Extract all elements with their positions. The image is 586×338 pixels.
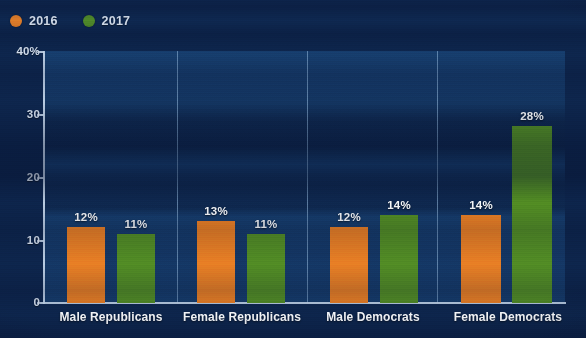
value-label-2017-female-republicans: 11% [247, 218, 285, 230]
legend-label-2017: 2017 [102, 14, 131, 28]
circle-marker-icon [83, 15, 95, 27]
value-label-2017-female-democrats: 28% [512, 110, 552, 122]
x-axis-category-male-republicans: Male Republicans [46, 310, 176, 324]
bar-2016-male-democrats[interactable] [330, 227, 368, 303]
value-label-2017-male-democrats: 14% [380, 199, 418, 211]
x-axis-category-female-republicans: Female Republicans [176, 310, 308, 324]
x-axis-category-male-democrats: Male Democrats [308, 310, 438, 324]
bar-2017-female-republicans[interactable] [247, 234, 285, 303]
plot-area: 40% 30 20 10 0 12% 11% 13% 11% 12% 14% 1… [0, 0, 586, 338]
bar-2016-male-republicans[interactable] [67, 227, 105, 303]
bars-layer [0, 0, 586, 303]
bar-2016-female-republicans[interactable] [197, 221, 235, 303]
bar-2017-male-democrats[interactable] [380, 215, 418, 303]
value-label-2016-female-republicans: 13% [197, 205, 235, 217]
legend-item-2016[interactable]: 2016 [10, 14, 58, 28]
legend-label-2016: 2016 [29, 14, 58, 28]
bar-2017-male-republicans[interactable] [117, 234, 155, 303]
value-label-2016-male-democrats: 12% [330, 211, 368, 223]
circle-marker-icon [10, 15, 22, 27]
bar-2016-female-democrats[interactable] [461, 215, 501, 303]
chart-legend: 2016 2017 [10, 10, 130, 32]
bar-2017-female-democrats[interactable] [512, 126, 552, 303]
value-label-2017-male-republicans: 11% [117, 218, 155, 230]
legend-item-2017[interactable]: 2017 [83, 14, 131, 28]
x-axis-category-female-democrats: Female Democrats [438, 310, 578, 324]
chart-screenshot: 40% 30 20 10 0 12% 11% 13% 11% 12% 14% 1… [0, 0, 586, 338]
value-label-2016-male-republicans: 12% [67, 211, 105, 223]
value-label-2016-female-democrats: 14% [461, 199, 501, 211]
